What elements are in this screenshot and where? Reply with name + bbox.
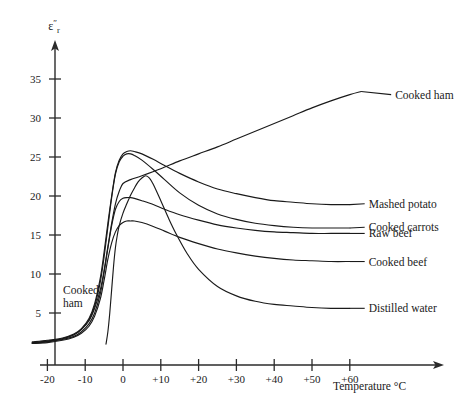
series-label-raw-beef: Raw beef — [369, 227, 413, 239]
leader-line-cooked-ham — [361, 91, 391, 94]
curve-cooked-carrots — [32, 154, 350, 343]
y-tick-label: 20 — [30, 190, 42, 202]
y-tick-label: 15 — [30, 229, 42, 241]
x-axis-title: Temperature °C — [333, 380, 406, 393]
leader-line-cooked-carrots — [350, 227, 365, 228]
x-tick-label: +10 — [152, 373, 170, 385]
x-tick-label: 0 — [120, 373, 126, 385]
x-tick-label: -10 — [78, 373, 93, 385]
y-axis-title: ε″r — [48, 18, 60, 35]
curve-mashed-potato — [32, 151, 350, 342]
y-tick-label: 5 — [36, 307, 42, 319]
chart-canvas: 5101520253035 -20-100+10+20+30+40+50+60 … — [0, 0, 463, 415]
leader-line-mashed-potato — [350, 204, 365, 205]
y-tick-label: 35 — [30, 73, 42, 85]
y-axis-title-subscript: r — [57, 25, 60, 35]
inline-annotation-cooked-ham-line1: Cooked — [63, 284, 99, 296]
x-tick-label: +30 — [228, 373, 246, 385]
x-tick-label: -20 — [40, 373, 55, 385]
series-label-distilled-water: Distilled water — [369, 302, 437, 314]
curve-raw-beef — [32, 197, 350, 343]
series-label-group: Cooked hamMashed potatoCooked carrotsRaw… — [369, 89, 454, 315]
inline-annotation-cooked-ham-line2: ham — [63, 297, 83, 309]
dielectric-loss-chart: 5101520253035 -20-100+10+20+30+40+50+60 … — [0, 0, 463, 415]
series-label-cooked-ham: Cooked ham — [395, 89, 454, 101]
series-label-mashed-potato: Mashed potato — [369, 198, 437, 211]
x-tick-label: +20 — [190, 373, 208, 385]
y-tick-label: 10 — [30, 268, 42, 280]
y-tick-label: 25 — [30, 151, 42, 163]
x-tick-group: -20-100+10+20+30+40+50+60 — [40, 359, 359, 385]
y-tick-label: 30 — [30, 112, 42, 124]
y-tick-group: 5101520253035 — [30, 73, 61, 319]
x-tick-label: +50 — [303, 373, 321, 385]
curve-cooked-beef — [32, 221, 350, 344]
x-tick-label: +40 — [266, 373, 284, 385]
series-label-cooked-beef: Cooked beef — [369, 256, 428, 268]
